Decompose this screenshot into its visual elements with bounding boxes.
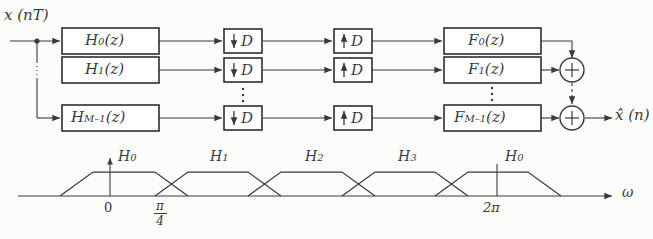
tick-label-pi-over-4: π 4 [152,200,168,227]
label-h1: H1(z) [85,60,124,78]
label-decimator-m1: D [241,109,253,127]
band-label-h0-right: H0 [505,148,524,164]
decimator-to-interpolator-links [262,41,332,118]
analysis-to-decimator-links [159,41,222,118]
frequency-response-curves [60,172,561,196]
band-h0-left [60,172,188,196]
label-interpolator-0: D [351,32,363,50]
label-interpolator-1: D [351,61,363,79]
band-label-h0-left: H0 [118,148,137,164]
label-decimator-0: D [241,32,253,50]
synthesis-column-ellipsis [491,87,493,101]
input-signal-label: x (nT) [4,6,49,24]
label-f1: F1(z) [468,60,504,78]
input-junction-dot [34,38,39,43]
input-bus [10,41,60,118]
label-fm1: FM–1(z) [454,108,506,126]
axis-label-omega: ω [622,184,633,200]
label-decimator-1: D [241,61,253,79]
tick-label-zero: 0 [104,200,112,215]
output-signal-label: x̂ (n) [615,106,650,124]
label-hm1: HM–1(z) [71,108,125,126]
decimator-column-ellipsis [242,88,244,102]
band-label-h1: H1 [210,148,229,164]
band-h0-right [435,172,561,196]
label-h0: H0(z) [85,31,124,49]
band-h1 [155,172,281,196]
tick-label-2pi: 2π [483,200,500,215]
band-h2 [248,172,375,196]
figure-container: x (nT) x̂ (n) H0(z) H1(z) HM–1(z) D D D … [0,0,653,239]
band-label-h3: H3 [398,148,417,164]
label-interpolator-m1: D [351,109,363,127]
interpolator-to-synthesis-links [372,41,442,118]
band-h3 [342,172,468,196]
label-f0: F0(z) [468,31,504,49]
band-label-h2: H2 [305,148,324,164]
